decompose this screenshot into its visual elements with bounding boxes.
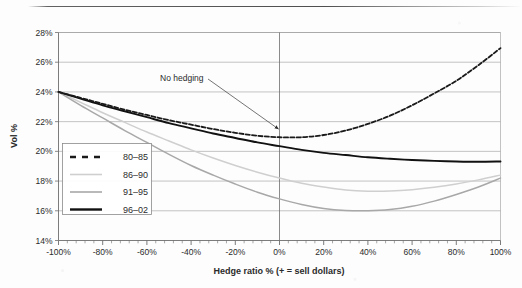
x-tick-label: -40% <box>181 247 201 257</box>
x-tick-label: 100% <box>490 247 512 257</box>
y-axis-title: Vol % <box>9 124 19 148</box>
legend-label-86-90: 86–90 <box>123 170 148 180</box>
x-axis-title: Hedge ratio % (+ = sell dollars) <box>213 266 344 276</box>
y-tick-label: 24% <box>35 87 52 97</box>
x-tick-label: -20% <box>225 247 245 257</box>
y-tick-label: 16% <box>35 206 52 216</box>
legend-label-91-95: 91–95 <box>123 187 148 197</box>
x-tick-label: 20% <box>315 247 332 257</box>
x-tick-label: 60% <box>404 247 421 257</box>
y-tick-label: 26% <box>35 57 52 67</box>
x-axis-ticks <box>59 241 501 246</box>
x-tick-label: 40% <box>359 247 376 257</box>
y-axis-ticks <box>55 33 59 241</box>
x-tick-label: -60% <box>137 247 157 257</box>
x-tick-label: -80% <box>93 247 113 257</box>
y-tick-label: 28% <box>35 28 52 38</box>
line-chart: -100%-80%-60%-40%-20%0%20%40%60%80%100% … <box>0 0 522 288</box>
y-tick-label: 18% <box>35 176 52 186</box>
x-axis-tick-labels: -100%-80%-60%-40%-20%0%20%40%60%80%100% <box>46 247 512 257</box>
x-tick-label: 80% <box>448 247 465 257</box>
x-tick-label: -100% <box>46 247 71 257</box>
y-tick-label: 22% <box>35 117 52 127</box>
legend-label-80-85: 80–85 <box>123 152 148 162</box>
x-tick-label: 0% <box>273 247 286 257</box>
y-tick-label: 14% <box>35 236 52 246</box>
legend-label-96-02: 96–02 <box>123 205 148 215</box>
y-axis-tick-labels: 14%16%18%20%22%24%26%28% <box>35 28 52 246</box>
chart-legend: 80–8586–9091–9596–02 <box>63 144 152 215</box>
y-tick-label: 20% <box>35 146 52 156</box>
chart-figure: -100%-80%-60%-40%-20%0%20%40%60%80%100% … <box>0 0 522 288</box>
annotation-label: No hedging <box>160 73 204 83</box>
no-hedging-annotation: No hedging <box>160 73 279 129</box>
